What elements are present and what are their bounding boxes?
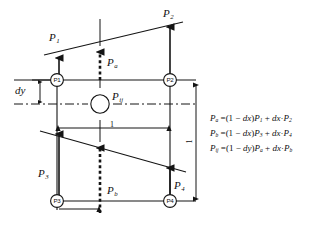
surface-line-bottom	[40, 131, 186, 172]
equation-pa-dx1: dx	[243, 113, 252, 123]
figure-canvas: P1 P2 P3 P4 P1 P2 P3 P4 Pa Pb Pij dy 1 1…	[0, 0, 317, 227]
equation-pij-term1-sub: a	[260, 147, 263, 153]
equation-pij-dx2: dx	[272, 143, 281, 153]
vector-label-pb-base: P	[107, 184, 114, 196]
equation-pa-term1-sub: 1	[260, 117, 263, 123]
equation-pb-lhs-sub: b	[216, 132, 219, 138]
equation-pa-lhs-sub: a	[216, 117, 219, 123]
dim-label-dy: dy	[15, 85, 25, 96]
node-label-p3: P3	[47, 198, 67, 204]
equation-pb-plus: +	[265, 128, 270, 138]
equation-pa-dx2: dx	[272, 113, 281, 123]
equation-pij-lhs-sub: ij	[216, 147, 219, 153]
vector-label-p4: P4	[174, 180, 185, 192]
equation-pa-term2-sub: 2	[289, 117, 292, 123]
dim-label-width: 1	[110, 120, 114, 129]
vector-label-p1: P1	[49, 32, 60, 44]
vector-label-p1-base: P	[49, 31, 56, 43]
equation-pb-dx2: dx	[272, 128, 281, 138]
equation-pb-open: (1 −	[226, 128, 243, 138]
equation-pij-plus: +	[265, 143, 270, 153]
node-label-p4: P4	[160, 198, 180, 204]
equation-pa: Pa =(1 − dx)P1 + dx·P2	[210, 113, 292, 123]
vector-label-pa-sub: a	[114, 62, 117, 69]
vector-label-pb-sub: b	[114, 190, 117, 197]
vector-label-pij: Pij	[112, 91, 123, 103]
equation-pa-plus: +	[265, 113, 270, 123]
equation-pij-open: (1 −	[226, 143, 243, 153]
equation-pa-open: (1 −	[226, 113, 243, 123]
dim-label-height: 1	[185, 140, 194, 144]
vector-label-pa: Pa	[107, 57, 118, 69]
surface-line-top	[44, 22, 183, 55]
vector-label-p3-base: P	[38, 167, 45, 179]
vector-arrows	[59, 19, 170, 213]
equation-pb: Pb =(1 − dx)P3 + dx·P4	[210, 128, 292, 138]
vector-label-p2-sub: 2	[170, 13, 173, 20]
node-circle-pij	[91, 95, 109, 113]
vector-label-p2-base: P	[163, 7, 170, 19]
equation-pij: Pij =(1 − dy)Pa + dx·Pb	[210, 143, 292, 153]
vector-label-p3-sub: 3	[45, 173, 48, 180]
node-label-p2: P2	[160, 77, 180, 83]
vector-label-p3: P3	[38, 168, 49, 180]
vector-label-p1-sub: 1	[56, 37, 59, 44]
vector-label-pa-base: P	[107, 56, 114, 68]
equation-pb-term2-sub: 4	[289, 132, 292, 138]
vector-label-p4-sub: 4	[181, 185, 184, 192]
equation-pb-term1-sub: 3	[260, 132, 263, 138]
vector-label-pij-sub: ij	[119, 96, 123, 103]
equation-pij-dx1: dy	[243, 143, 252, 153]
equation-pb-dx1: dx	[243, 128, 252, 138]
vector-label-pij-base: P	[112, 90, 119, 102]
vector-label-p2: P2	[163, 8, 174, 20]
vector-label-p4-base: P	[174, 179, 181, 191]
vector-label-pb: Pb	[107, 185, 118, 197]
equation-pij-term2-sub: b	[289, 147, 292, 153]
node-label-p1: P1	[47, 77, 67, 83]
